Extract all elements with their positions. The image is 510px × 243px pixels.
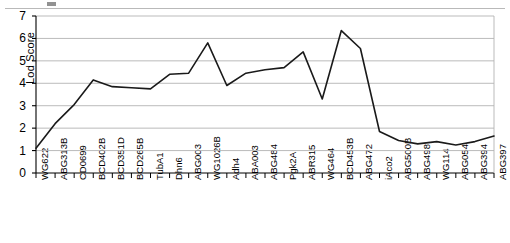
lod-score-figure: Lod Score 01234567 WG622ABG313BCD0699BCD…: [0, 0, 510, 243]
x-tick-marks: [36, 173, 494, 178]
y-tick-marks: [32, 16, 36, 173]
lod-score-line: [36, 31, 494, 149]
axis-lines: [36, 16, 494, 173]
chart-plot-area: [0, 0, 510, 243]
